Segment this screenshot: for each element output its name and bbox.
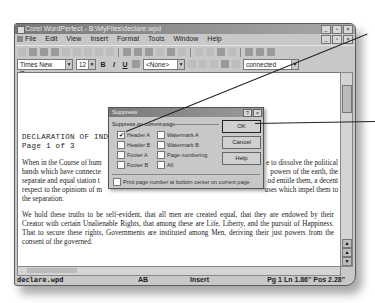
menu-format[interactable]: Format — [117, 34, 139, 44]
zoom-icon[interactable] — [256, 48, 264, 56]
open-icon[interactable] — [29, 48, 37, 56]
cancel-button[interactable]: Cancel — [222, 136, 261, 149]
vertical-scrollbar[interactable]: ▲ ▲ ▼ — [340, 72, 353, 267]
maximize-button[interactable]: ▫ — [332, 25, 342, 34]
menu-file[interactable]: File — [25, 34, 36, 44]
checkbox-label: Watermark B — [167, 142, 199, 148]
checkbox-box[interactable] — [117, 161, 125, 169]
save-icon[interactable] — [40, 48, 48, 56]
checkbox-box[interactable] — [157, 151, 165, 159]
chevron-down-icon: ▼ — [177, 60, 184, 69]
checkbox-label: Header B — [127, 142, 150, 148]
close-button[interactable]: × — [343, 25, 353, 34]
menu-edit[interactable]: Edit — [45, 34, 57, 44]
checkbox-box[interactable] — [157, 141, 165, 149]
menu-window[interactable]: Window — [173, 34, 198, 44]
font-color-icon[interactable] — [210, 60, 218, 68]
checkbox-box[interactable]: ✔ — [117, 131, 125, 139]
redo-icon[interactable] — [106, 48, 114, 56]
chevron-down-icon: ▼ — [88, 60, 95, 69]
bullets-icon[interactable] — [195, 48, 203, 56]
copy-icon[interactable] — [73, 48, 81, 56]
checkbox-box[interactable] — [157, 161, 165, 169]
cursor-icon[interactable] — [232, 60, 240, 68]
dialog-divider — [112, 174, 260, 175]
checkbox-label: Header A — [127, 132, 150, 138]
numbering-icon[interactable] — [206, 48, 214, 56]
page-up-icon[interactable]: ▲ — [342, 248, 352, 257]
doc-page-number: Page 1 of 3 — [22, 142, 75, 151]
checkbox-watermark-b[interactable]: Watermark B — [157, 141, 199, 149]
clipart-icon[interactable] — [145, 48, 153, 56]
menu-insert[interactable]: Insert — [90, 34, 108, 44]
font-size-select[interactable]: 12▼ — [76, 59, 96, 70]
h-scroll-thumb[interactable] — [27, 268, 77, 273]
table-icon[interactable] — [228, 48, 236, 56]
style-select[interactable]: <None>▼ — [143, 59, 185, 70]
title-bar: Corel WordPerfect - B:\MyFiles\declare.w… — [15, 24, 355, 34]
spellcheck-icon[interactable] — [123, 48, 131, 56]
status-mode[interactable]: AB — [138, 275, 148, 285]
check-icon[interactable] — [134, 48, 142, 56]
scroll-up-icon[interactable]: ▲ — [342, 239, 352, 248]
table-delete-icon[interactable] — [199, 60, 207, 68]
italic-button[interactable]: I — [110, 61, 118, 68]
checkbox-all[interactable]: All — [157, 161, 173, 169]
checkbox-footer-a[interactable]: Footer A — [117, 151, 148, 159]
doc-restore-button[interactable]: ▫ — [332, 35, 342, 44]
underline-button[interactable]: U — [121, 61, 129, 68]
box-icon[interactable] — [156, 48, 164, 56]
bold-button[interactable]: B — [99, 61, 107, 68]
minimize-button[interactable]: _ — [321, 25, 331, 34]
scroll-thumb[interactable] — [342, 85, 352, 113]
print-icon[interactable] — [51, 48, 59, 56]
checkbox-print-page-number[interactable]: Print page number at bottom center on cu… — [113, 178, 250, 186]
menu-view[interactable]: View — [66, 34, 81, 44]
new-icon[interactable] — [18, 48, 26, 56]
paragraph-2: We hold these truths to be self-evident,… — [22, 211, 334, 247]
page-view-icon[interactable] — [245, 48, 253, 56]
doc-minimize-button[interactable]: _ — [321, 35, 331, 44]
checkbox-page-numbering[interactable]: Page numbering — [157, 151, 207, 159]
menu-bar: File Edit View Insert Format Tools Windo… — [15, 34, 355, 44]
checkbox-box[interactable] — [113, 178, 121, 186]
pen-icon[interactable] — [267, 48, 275, 56]
font-size-value: 12 — [79, 61, 86, 68]
suppress-dialog: Suppress ? × Suppress on current page ✔H… — [108, 107, 264, 189]
menu-help[interactable]: Help — [207, 34, 221, 44]
textart-icon[interactable] — [167, 48, 175, 56]
paste-icon[interactable] — [84, 48, 92, 56]
highlight-icon[interactable] — [178, 48, 186, 56]
close-icon[interactable]: × — [253, 109, 262, 117]
cut-icon[interactable] — [62, 48, 70, 56]
checkbox-footer-b[interactable]: Footer B — [117, 161, 148, 169]
mode-value: connected — [246, 61, 276, 68]
help-button[interactable]: Help — [222, 152, 261, 165]
checkbox-watermark-a[interactable]: Watermark A — [157, 131, 199, 139]
columns-icon[interactable] — [217, 48, 225, 56]
separator — [190, 48, 191, 57]
justify-icon[interactable] — [132, 60, 140, 68]
menu-tools[interactable]: Tools — [148, 34, 164, 44]
checkbox-label: Page numbering — [167, 152, 207, 158]
checkbox-box[interactable] — [117, 141, 125, 149]
checkbox-header-b[interactable]: Header B — [117, 141, 150, 149]
font-select[interactable]: Times New Roman▼ — [17, 59, 73, 70]
chevron-down-icon: ▼ — [65, 60, 72, 69]
undo-icon[interactable] — [95, 48, 103, 56]
style-value: <None> — [146, 61, 169, 68]
help-icon[interactable]: ? — [243, 109, 252, 117]
app-icon — [17, 26, 25, 34]
checkbox-label: Print page number at bottom center on cu… — [123, 179, 250, 185]
checkbox-box[interactable] — [157, 131, 165, 139]
ok-button[interactable]: OK — [222, 120, 261, 133]
dialog-title: Suppress — [112, 109, 137, 115]
checkbox-header-a[interactable]: ✔Header A — [117, 131, 150, 139]
checkbox-box[interactable] — [117, 151, 125, 159]
table-insert-icon[interactable] — [188, 60, 196, 68]
hyperlink-icon[interactable] — [221, 60, 229, 68]
status-insert[interactable]: Insert — [190, 275, 209, 285]
page-down-icon[interactable]: ▼ — [342, 257, 352, 266]
separator — [118, 48, 119, 57]
status-bar: declare.wpd AB Insert Pg 1 Ln 1.86" Pos … — [15, 275, 355, 285]
